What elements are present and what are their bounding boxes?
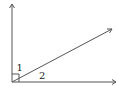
angle-diagram: 1 2 [0, 0, 117, 86]
diagonal-ray [12, 29, 112, 82]
angle-1-label: 1 [17, 62, 23, 73]
right-angle-marker [12, 74, 19, 82]
angle-2-label: 2 [39, 70, 45, 81]
